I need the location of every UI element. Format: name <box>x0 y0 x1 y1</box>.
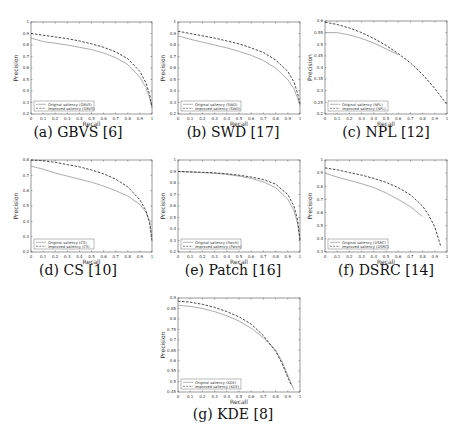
y-tick-label: 0.5 <box>23 203 30 208</box>
y-tick-label: 0.3 <box>23 234 30 239</box>
y-tick-label: 0.2 <box>23 249 30 254</box>
x-tick-label: 0.3 <box>358 254 365 259</box>
y-tick-label: 0.4 <box>170 226 177 231</box>
y-axis-label: Precision <box>12 54 19 81</box>
y-tick-label: 0.5 <box>170 77 177 82</box>
y-tick-label: 0.8 <box>23 157 30 162</box>
y-tick-label: 0.6 <box>23 188 30 193</box>
x-tick-label: 0.7 <box>260 254 267 259</box>
y-tick-label: 0.3 <box>170 100 177 105</box>
y-tick-label: 0.9 <box>23 31 30 36</box>
x-tick-label: 0.6 <box>100 116 107 121</box>
y-tick-label: 1 <box>173 157 176 162</box>
legend-entry: Improved saliency (CS) <box>48 245 90 249</box>
chart-f: 00.10.20.30.40.50.60.70.80.910.30.40.50.… <box>308 145 464 262</box>
y-tick-label: 0.5 <box>23 77 30 82</box>
x-tick-label: 0.6 <box>395 254 402 259</box>
x-tick-label: 0.9 <box>285 116 292 121</box>
chart-b: 00.10.20.30.40.50.60.70.80.910.20.30.40.… <box>155 0 311 124</box>
legend-entry: Improved saliency (KDE) <box>195 385 240 389</box>
chart-panel-d: 00.10.20.30.40.50.60.70.80.910.20.30.40.… <box>0 145 156 282</box>
legend: Original saliency (SWD)Improved saliency… <box>181 101 241 111</box>
x-tick-label: 1 <box>151 116 154 121</box>
legend: Original saliency (CS)Improved saliency … <box>34 239 94 249</box>
y-tick-label: 0.3 <box>23 100 30 105</box>
x-tick-label: 0.1 <box>334 254 341 259</box>
x-tick-label: 1 <box>446 116 449 121</box>
y-tick-label: 0.65 <box>167 348 176 353</box>
plot-area <box>178 298 300 392</box>
y-tick-label: 0.7 <box>170 54 177 59</box>
legend: Original saliency (GBVS)Improved salienc… <box>34 101 95 111</box>
chart-panel-c: 00.10.20.30.40.50.60.70.80.910.20.250.30… <box>308 0 464 144</box>
legend: Original saliency (NPL)Improved saliency… <box>328 101 388 111</box>
chart-caption-c: (c) NPL [12] <box>308 124 464 140</box>
x-tick-label: 0.2 <box>199 254 206 259</box>
y-tick-label: 0.4 <box>170 88 177 93</box>
y-tick-label: 0.55 <box>167 368 176 373</box>
x-tick-label: 0.3 <box>358 116 365 121</box>
x-tick-label: 0.8 <box>419 116 426 121</box>
x-tick-label: 0.3 <box>211 116 218 121</box>
x-tick-label: 0.9 <box>137 116 144 121</box>
y-tick-label: 0.6 <box>170 65 177 70</box>
x-tick-label: 0 <box>324 254 327 259</box>
x-tick-label: 0.8 <box>272 116 279 121</box>
x-tick-label: 0.3 <box>64 116 71 121</box>
x-tick-label: 0.8 <box>419 254 426 259</box>
x-tick-label: 0.1 <box>40 254 47 259</box>
chart-panel-b: 00.10.20.30.40.50.60.70.80.910.20.30.40.… <box>155 0 311 144</box>
y-tick-label: 0.45 <box>314 53 323 58</box>
chart-c: 00.10.20.30.40.50.60.70.80.910.20.250.30… <box>308 0 464 124</box>
chart-a: 00.10.20.30.40.50.60.70.80.910.20.30.40.… <box>0 0 156 124</box>
x-tick-label: 0.7 <box>113 116 120 121</box>
x-tick-label: 0 <box>177 394 180 399</box>
x-tick-label: 0.8 <box>125 116 132 121</box>
y-tick-label: 0.25 <box>314 100 323 105</box>
y-axis-label: Precision <box>159 331 166 358</box>
y-tick-label: 0.45 <box>167 389 176 394</box>
y-tick-label: 0.4 <box>23 88 30 93</box>
y-tick-label: 0.8 <box>170 180 177 185</box>
x-tick-label: 0.1 <box>187 254 194 259</box>
y-tick-label: 0.6 <box>23 65 30 70</box>
plot-area <box>178 22 300 114</box>
x-tick-label: 0.3 <box>211 254 218 259</box>
x-tick-label: 0.6 <box>248 394 255 399</box>
y-tick-label: 0.6 <box>170 358 177 363</box>
x-tick-label: 0.2 <box>199 394 206 399</box>
y-tick-label: 0.6 <box>170 203 177 208</box>
x-tick-label: 0.6 <box>248 116 255 121</box>
chart-panel-f: 00.10.20.30.40.50.60.70.80.910.30.40.50.… <box>308 145 464 282</box>
y-axis-label: Precision <box>12 192 19 219</box>
y-tick-label: 0.7 <box>170 192 177 197</box>
legend-entry: Improved saliency (DSRC) <box>342 245 389 249</box>
y-tick-label: 0.3 <box>317 88 324 93</box>
y-tick-label: 0.5 <box>317 223 324 228</box>
x-tick-label: 0.7 <box>407 254 414 259</box>
y-tick-label: 0.2 <box>23 111 30 116</box>
legend: Original saliency (KDE)Improved saliency… <box>181 379 241 389</box>
x-tick-label: 0.6 <box>248 254 255 259</box>
y-tick-label: 0.8 <box>170 42 177 47</box>
y-tick-label: 0.9 <box>170 31 177 36</box>
chart-panel-a: 00.10.20.30.40.50.60.70.80.910.20.30.40.… <box>0 0 156 144</box>
y-tick-label: 0.75 <box>167 327 176 332</box>
x-tick-label: 1 <box>299 254 302 259</box>
y-tick-label: 0.7 <box>170 337 177 342</box>
y-tick-label: 0.3 <box>317 249 324 254</box>
x-tick-label: 0.6 <box>100 254 107 259</box>
y-tick-label: 0.2 <box>170 249 177 254</box>
x-tick-label: 0.1 <box>187 394 194 399</box>
plot-area <box>325 21 447 114</box>
chart-caption-d: (d) CS [10] <box>0 262 156 278</box>
x-tick-label: 0.1 <box>40 116 47 121</box>
x-tick-label: 0.1 <box>334 116 341 121</box>
chart-caption-e: (e) Patch [16] <box>155 262 311 278</box>
y-tick-label: 0.7 <box>23 173 30 178</box>
x-tick-label: 0.3 <box>64 254 71 259</box>
plot-area <box>178 160 300 252</box>
y-tick-label: 0.8 <box>170 316 177 321</box>
x-tick-label: 0 <box>324 116 327 121</box>
x-tick-label: 0.8 <box>125 254 132 259</box>
